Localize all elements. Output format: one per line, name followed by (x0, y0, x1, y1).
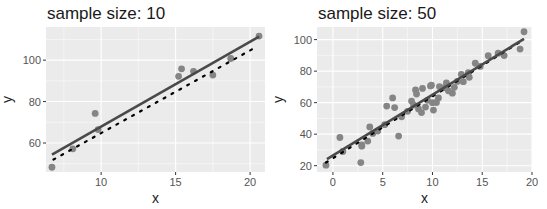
data-point (460, 78, 467, 85)
data-point (521, 28, 528, 35)
y-tick-label: 40 (300, 128, 312, 140)
data-point (445, 87, 452, 94)
data-point (435, 95, 442, 102)
y-tick-label: 80 (29, 96, 41, 108)
data-point (395, 133, 402, 140)
y-axis-label: y (270, 96, 286, 103)
data-point (357, 159, 364, 166)
chart-panel-1: sample size: 101015206080100xy (0, 4, 265, 206)
data-point (336, 134, 343, 141)
data-point (422, 104, 429, 111)
x-axis-label: x (421, 190, 428, 206)
x-tick-label: 20 (526, 176, 538, 188)
x-tick-label: 15 (476, 176, 488, 188)
x-tick-label: 20 (244, 176, 256, 188)
figure: sample size: 101015206080100xysample siz… (0, 0, 547, 209)
data-point (451, 84, 458, 91)
data-point (92, 110, 99, 117)
x-axis-label: x (152, 190, 159, 206)
y-tick-label: 60 (300, 97, 312, 109)
y-tick-label: 20 (300, 160, 312, 172)
data-point (419, 85, 426, 92)
y-axis-label: y (0, 96, 15, 103)
x-tick-label: 0 (330, 176, 336, 188)
data-point (227, 55, 234, 62)
data-point (358, 143, 365, 150)
data-point (389, 95, 396, 102)
y-tick-label: 60 (29, 137, 41, 149)
chart-panel-2: sample size: 500510152020406080100xy (270, 4, 538, 206)
chart-title: sample size: 50 (318, 4, 436, 23)
data-point (418, 109, 425, 116)
y-tick-label: 100 (23, 54, 41, 66)
x-tick-label: 15 (169, 176, 181, 188)
data-point (391, 104, 398, 111)
data-point (178, 65, 185, 72)
data-point (517, 46, 524, 53)
data-point (366, 124, 373, 131)
y-tick-label: 100 (294, 34, 312, 46)
y-tick-label: 80 (300, 65, 312, 77)
data-point (428, 82, 435, 89)
plot-panel (46, 27, 265, 172)
data-point (175, 73, 182, 80)
x-tick-label: 10 (95, 176, 107, 188)
chart-title: sample size: 10 (47, 4, 165, 23)
x-tick-label: 10 (426, 176, 438, 188)
data-point (413, 91, 420, 98)
data-point (49, 164, 56, 171)
x-tick-label: 5 (380, 176, 386, 188)
data-point (383, 103, 390, 110)
chart-figure: sample size: 101015206080100xysample siz… (0, 0, 547, 209)
data-point (430, 107, 437, 114)
